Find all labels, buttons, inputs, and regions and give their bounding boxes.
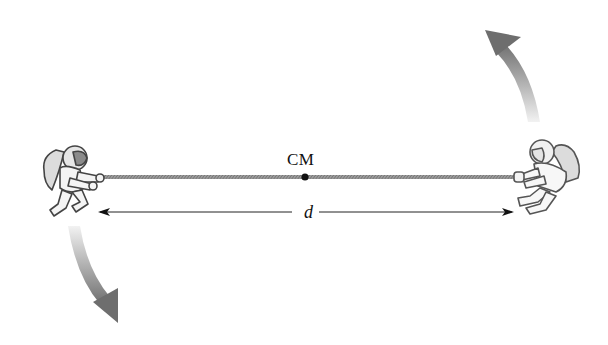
right-astronaut-icon: [514, 140, 579, 214]
center-of-mass-dot: [301, 173, 308, 180]
rope: [100, 175, 520, 179]
distance-label: d: [298, 202, 319, 223]
rotation-arrow-down-icon: [68, 226, 118, 323]
left-astronaut-icon: [44, 146, 104, 216]
center-of-mass-label: CM: [287, 150, 314, 170]
diagram-svg: [0, 0, 608, 345]
diagram-canvas: CM d: [0, 0, 608, 345]
rotation-arrow-up-icon: [485, 30, 540, 122]
